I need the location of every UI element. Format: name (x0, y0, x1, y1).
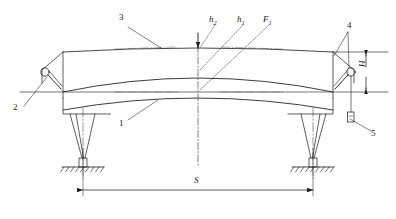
annotation-label-h2: h2 (209, 15, 217, 26)
callout-label-5: 5 (371, 129, 376, 138)
left-leg-outer (70, 114, 82, 158)
callout-label-4: 4 (347, 21, 352, 30)
figure-canvas: 3 1 2 4 5 S H h2 h1 F1 (0, 0, 396, 219)
right-ground-symbol (291, 167, 335, 172)
annotation-h1-sub: 1 (242, 19, 245, 26)
leader-callout-1 (128, 100, 158, 120)
annotation-h2-sub: 2 (214, 19, 217, 26)
right-leg-outer (314, 114, 326, 158)
leader-callout-3 (128, 27, 161, 48)
annotation-label-h1: h1 (237, 15, 245, 26)
left-leg-mid (76, 114, 84, 158)
annotation-label-F1: F1 (263, 15, 272, 26)
left-end-shoulder (42, 52, 63, 83)
callout-label-2: 2 (13, 103, 18, 112)
left-ground-symbol (61, 167, 105, 172)
leader-callout-4a (334, 32, 348, 56)
right-leg-inner (301, 114, 311, 158)
leader-callout-2 (24, 77, 47, 106)
engineering-drawing-svg (0, 0, 396, 219)
dimension-label-S: S (194, 176, 199, 185)
left-leg-inner (85, 114, 95, 158)
right-leg-mid (313, 114, 321, 158)
leader-callout-5 (350, 119, 371, 131)
leader-callout-4b (348, 32, 349, 68)
annotation-F1-sub: 1 (269, 19, 272, 26)
callout-label-1: 1 (119, 119, 124, 128)
leader-h2 (200, 25, 215, 48)
leader-F1 (200, 25, 269, 90)
dimension-label-H: H (358, 61, 367, 68)
callout-label-3: 3 (119, 13, 124, 22)
